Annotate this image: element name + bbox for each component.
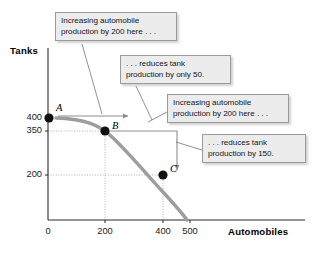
point-c bbox=[158, 170, 167, 179]
ppf-curve bbox=[56, 118, 187, 220]
point-label-c: C bbox=[170, 163, 177, 174]
x-tick-400: 400 bbox=[148, 226, 178, 236]
data-points bbox=[44, 113, 167, 179]
callout-reduce-tanks-150: . . . reduces tank production by 150. bbox=[202, 134, 306, 163]
y-tick-400: 400 bbox=[12, 112, 42, 122]
callout-increase-autos-a-to-b: Increasing automobile production by 200 … bbox=[55, 12, 177, 41]
point-label-a: A bbox=[56, 102, 62, 113]
callout-reduce-tanks-50: . . . reduces tank production by only 50… bbox=[120, 55, 231, 84]
point-label-b: B bbox=[112, 120, 118, 131]
grid-guides bbox=[48, 131, 163, 220]
x-axis-title: Automobiles bbox=[228, 226, 288, 237]
point-b bbox=[100, 126, 109, 135]
y-tick-200: 200 bbox=[12, 169, 42, 179]
y-axis-title: Tanks bbox=[10, 45, 38, 56]
x-tick-0: 0 bbox=[33, 226, 63, 236]
x-tick-200: 200 bbox=[90, 226, 120, 236]
axis-ticks bbox=[45, 118, 190, 223]
y-tick-350: 350 bbox=[12, 125, 42, 135]
point-a bbox=[44, 113, 53, 122]
figure-canvas: Tanks Automobiles 400 350 200 0 200 400 … bbox=[0, 0, 320, 256]
x-tick-500: 500 bbox=[175, 226, 205, 236]
callout-increase-autos-b-to-c: Increasing automobile production by 200 … bbox=[167, 94, 289, 123]
